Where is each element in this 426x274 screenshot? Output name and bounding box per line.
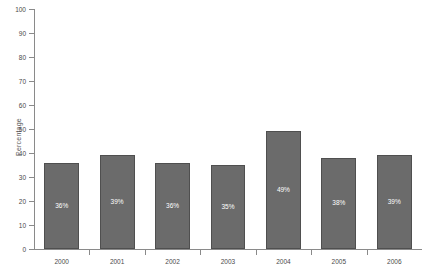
bar-value-label: 49% xyxy=(266,186,301,194)
y-axis-tick-label: 0 xyxy=(0,246,26,253)
y-axis-tick-label: 20 xyxy=(0,198,26,205)
bar-group: 39% xyxy=(377,9,412,249)
x-axis-tick xyxy=(200,250,201,255)
y-axis-tick-label: 80 xyxy=(0,54,26,61)
y-axis-tick-label: 100 xyxy=(0,6,26,13)
y-axis-tick-label: 40 xyxy=(0,150,26,157)
bar-group: 36% xyxy=(155,9,190,249)
x-axis-tick-label: 2005 xyxy=(311,258,366,266)
x-axis-tick-label: 2006 xyxy=(367,258,422,266)
bar-group: 38% xyxy=(321,9,356,249)
bar-value-label: 36% xyxy=(44,202,79,210)
x-axis-tick-label: 2000 xyxy=(34,258,89,266)
x-axis-tick-label: 2003 xyxy=(200,258,255,266)
y-axis-tick-label: 30 xyxy=(0,174,26,181)
x-axis-line xyxy=(34,249,422,250)
y-axis-tick-label: 90 xyxy=(0,30,26,37)
x-axis-tick xyxy=(256,250,257,255)
bar-value-label: 39% xyxy=(377,198,412,206)
bar-group: 49% xyxy=(266,9,301,249)
x-axis-tick-label: 2002 xyxy=(145,258,200,266)
bar-group: 36% xyxy=(44,9,79,249)
x-axis-tick xyxy=(89,250,90,255)
x-axis-tick xyxy=(311,250,312,255)
y-axis-tick xyxy=(29,249,34,250)
y-axis-tick-label: 60 xyxy=(0,102,26,109)
bar-chart: Percentage 0102030405060708090100 36%39%… xyxy=(0,0,426,274)
y-axis-tick-label: 50 xyxy=(0,126,26,133)
y-axis-title: Percentage xyxy=(12,0,26,274)
y-axis-tick-label: 70 xyxy=(0,78,26,85)
y-axis-tick-label: 10 xyxy=(0,222,26,229)
x-axis-tick-label: 2004 xyxy=(256,258,311,266)
bar-value-label: 35% xyxy=(211,203,246,211)
bar-value-label: 38% xyxy=(321,199,356,207)
bar-value-label: 36% xyxy=(155,202,190,210)
x-axis-tick xyxy=(145,250,146,255)
bar-group: 39% xyxy=(100,9,135,249)
bar-value-label: 39% xyxy=(100,198,135,206)
x-axis-tick-label: 2001 xyxy=(89,258,144,266)
x-axis-tick xyxy=(367,250,368,255)
bars-layer: 36%39%36%35%49%38%39% xyxy=(34,9,422,249)
bar-group: 35% xyxy=(211,9,246,249)
